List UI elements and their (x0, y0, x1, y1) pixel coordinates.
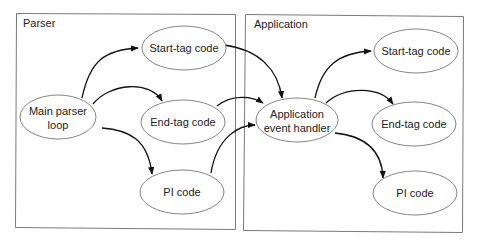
svg-text:PI code: PI code (396, 187, 433, 199)
edge-main-to-starttag (82, 48, 138, 98)
svg-text:Start-tag code: Start-tag code (149, 42, 218, 54)
edge-handler-to-endtag (326, 90, 393, 104)
node-main-parser-loop: Main parser loop (20, 95, 96, 139)
node-parser-end-tag-code: End-tag code (141, 100, 225, 144)
svg-text:Start-tag code: Start-tag code (381, 45, 450, 57)
diagram-canvas: Parser Application Main parser loop Star… (0, 0, 480, 242)
svg-text:Application: Application (270, 108, 324, 120)
node-app-start-tag-code: Start-tag code (374, 29, 458, 73)
node-parser-start-tag-code: Start-tag code (142, 26, 226, 70)
parser-group-label: Parser (23, 17, 56, 29)
edge-starttag-to-handler (224, 45, 282, 98)
svg-text:PI code: PI code (163, 186, 200, 198)
edge-handler-to-pi (335, 133, 383, 178)
edge-main-to-endtag (93, 87, 162, 104)
svg-text:End-tag code: End-tag code (381, 118, 446, 130)
application-group-label: Application (254, 18, 308, 30)
edge-endtag-to-handler (217, 97, 263, 106)
node-application-event-handler: Application event handler (256, 98, 338, 142)
svg-text:Main parser: Main parser (29, 105, 87, 117)
svg-text:event handler: event handler (264, 122, 331, 134)
node-parser-pi-code: PI code (140, 170, 224, 214)
node-app-end-tag-code: End-tag code (372, 102, 456, 146)
node-app-pi-code: PI code (373, 171, 457, 215)
svg-text:loop: loop (48, 119, 69, 131)
edge-main-to-pi (102, 128, 152, 174)
svg-text:End-tag code: End-tag code (150, 116, 215, 128)
